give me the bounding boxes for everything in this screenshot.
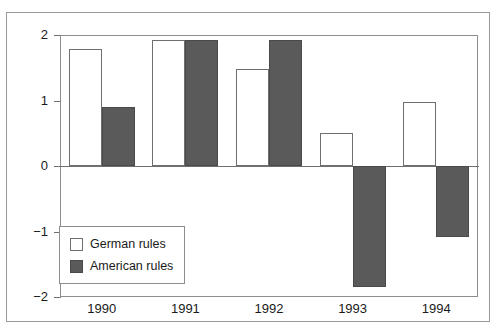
legend-entry-german[interactable]: German rules <box>70 235 166 253</box>
bar-german-1990[interactable] <box>69 49 102 166</box>
bar-german-1993[interactable] <box>320 133 353 166</box>
bar-american-1991[interactable] <box>185 40 218 166</box>
legend-label-american: American rules <box>90 259 173 273</box>
x-tick-label-1994: 1994 <box>394 301 478 316</box>
legend-label-german: German rules <box>90 237 166 251</box>
legend-swatch-german-icon <box>70 238 83 251</box>
bar-american-1990[interactable] <box>102 107 135 166</box>
y-tick-mark-0 <box>54 166 60 167</box>
y-tick-label-neg1: −1 <box>14 224 48 239</box>
y-tick-mark-2 <box>54 35 60 36</box>
x-tick-label-1991: 1991 <box>143 301 227 316</box>
bar-american-1993[interactable] <box>353 166 386 287</box>
y-tick-label-2: 2 <box>14 27 48 42</box>
y-tick-mark-1 <box>54 101 60 102</box>
x-tick-label-1993: 1993 <box>311 301 395 316</box>
y-tick-label-1: 1 <box>14 93 48 108</box>
legend-entry-american[interactable]: American rules <box>70 257 173 275</box>
x-tick-label-1990: 1990 <box>60 301 144 316</box>
chart-legend: German rules American rules <box>59 226 185 284</box>
y-tick-label-neg2: −2 <box>14 289 48 304</box>
legend-swatch-american-icon <box>70 260 83 273</box>
y-tick-label-0: 0 <box>14 158 48 173</box>
bar-german-1991[interactable] <box>152 40 185 166</box>
bar-american-1994[interactable] <box>436 166 469 237</box>
x-tick-label-1992: 1992 <box>227 301 311 316</box>
bar-german-1992[interactable] <box>236 69 269 166</box>
zero-baseline <box>60 166 479 167</box>
bar-german-1994[interactable] <box>403 102 436 166</box>
bar-chart-figure: 2 1 0 −1 −2 1990 1991 1992 1993 1994 Ger… <box>0 0 502 330</box>
bar-american-1992[interactable] <box>269 40 302 166</box>
y-tick-mark-neg2 <box>54 297 60 298</box>
